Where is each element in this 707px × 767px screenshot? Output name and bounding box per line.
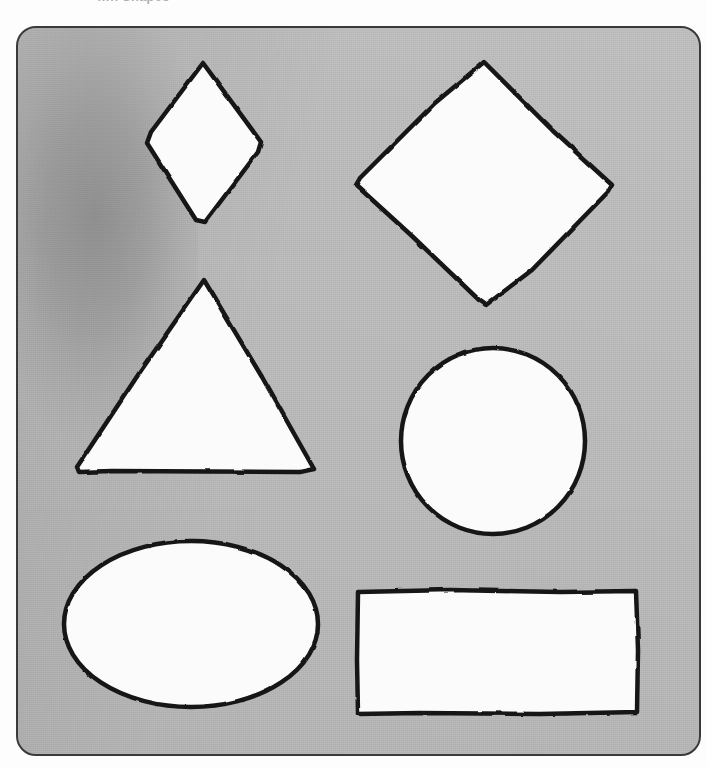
clipped-header-text: …h Shapes xyxy=(97,0,397,5)
shape-rectangle[interactable] xyxy=(357,590,638,714)
shape-ellipse[interactable] xyxy=(64,541,318,707)
shape-circle[interactable] xyxy=(401,348,585,534)
worksheet-page: …h Shapes xyxy=(0,0,707,767)
